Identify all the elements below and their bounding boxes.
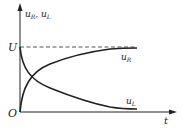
series-uL-curve: [20, 47, 137, 109]
x-axis-arrow-icon: [169, 110, 177, 115]
y-axis-arrow-icon: [18, 3, 23, 11]
y-axis-label: uR, uL: [25, 9, 51, 20]
series-uL-label: uL: [126, 96, 136, 107]
series-uR-label: uR: [121, 52, 132, 63]
origin-label: O: [8, 107, 17, 120]
x-axis-label: t: [164, 115, 169, 126]
chart: uR, uL U O t uR uL: [0, 0, 185, 131]
series-uR-curve: [20, 48, 137, 112]
U-tick-label: U: [8, 41, 18, 54]
